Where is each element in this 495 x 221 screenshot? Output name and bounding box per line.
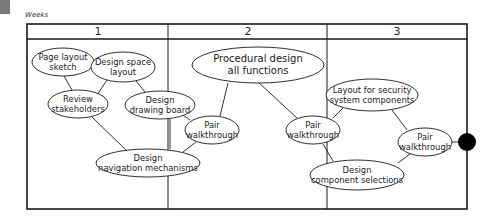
svg-text:Design: Design (146, 95, 175, 105)
svg-text:all functions: all functions (228, 65, 289, 76)
week-schedule-diagram: 1 2 3 Page layout sketch Design space la… (0, 0, 495, 221)
svg-text:component selections: component selections (311, 175, 403, 185)
node-design-space-layout: Design space layout (91, 52, 155, 82)
svg-text:Design space: Design space (95, 57, 151, 67)
svg-text:Page layout: Page layout (38, 52, 88, 62)
node-page-layout-sketch: Page layout sketch (32, 48, 94, 76)
node-review-stakeholders: Review stakeholders (48, 90, 108, 118)
node-pair-walkthrough-3: Pair walkthrough (398, 128, 452, 156)
node-procedural-design-all-functions: Procedural design all functions (192, 47, 324, 83)
node-design-drawing-board: Design drawing board (125, 91, 195, 119)
svg-text:Pair: Pair (305, 120, 321, 130)
week-header-1: 1 (95, 25, 102, 38)
node-pair-walkthrough-2: Pair walkthrough (286, 116, 340, 144)
svg-text:Procedural design: Procedural design (213, 53, 303, 64)
svg-text:Design: Design (343, 165, 372, 175)
svg-text:Design: Design (134, 153, 163, 163)
svg-text:drawing board: drawing board (130, 105, 191, 115)
svg-text:Pair: Pair (417, 132, 433, 142)
end-milestone-dot (458, 133, 476, 151)
week-header-2: 2 (245, 25, 252, 38)
svg-text:walkthrough: walkthrough (186, 130, 238, 140)
svg-text:walkthrough: walkthrough (287, 130, 339, 140)
svg-text:Review: Review (63, 94, 93, 104)
svg-text:layout: layout (110, 67, 137, 77)
svg-text:Layout for security: Layout for security (333, 85, 412, 95)
svg-text:stakeholders: stakeholders (51, 104, 105, 114)
node-design-navigation-mechanisms: Design navigation mechanisms (96, 149, 200, 177)
svg-text:navigation mechanisms: navigation mechanisms (98, 163, 198, 173)
svg-text:sketch: sketch (49, 62, 76, 72)
node-design-component-selections: Design component selections (310, 160, 404, 190)
svg-text:Pair: Pair (204, 120, 220, 130)
svg-text:system components: system components (330, 95, 415, 105)
week-header-3: 3 (394, 25, 401, 38)
node-pair-walkthrough-1: Pair walkthrough (185, 116, 239, 144)
svg-text:walkthrough: walkthrough (399, 142, 451, 152)
node-layout-security-components: Layout for security system components (326, 79, 418, 111)
